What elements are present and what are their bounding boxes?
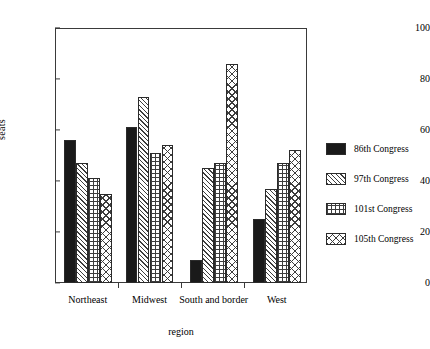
bar [88,178,100,283]
x-tick-label: Midwest [132,294,167,305]
y-tick-label: 0 [384,278,430,288]
bar [214,163,226,283]
bar-chart: seats 020406080100 NortheastMidwestSouth… [0,0,430,349]
x-tick-mark [118,283,119,288]
bar [289,150,301,283]
legend-item[interactable]: 101st Congress [326,201,413,217]
y-tick-label: 80 [384,74,430,84]
legend-swatch [326,173,346,185]
legend-item[interactable]: 86th Congress [326,141,413,157]
legend-item[interactable]: 97th Congress [326,171,413,187]
bar [126,127,138,283]
bar [100,194,112,283]
y-tick-label: 60 [384,125,430,135]
legend: 86th Congress97th Congress101st Congress… [326,141,413,261]
legend-label: 97th Congress [354,174,409,184]
legend-item[interactable]: 105th Congress [326,231,413,247]
legend-swatch [326,233,346,245]
bar [162,145,174,283]
bar [150,153,162,283]
legend-swatch [326,203,346,215]
bar [265,189,277,283]
x-axis-label: region [168,326,194,337]
bars-layer [55,28,307,283]
bar [277,163,289,283]
bar [64,140,76,283]
bar [202,168,214,283]
x-tick-label: West [267,294,287,305]
x-tick-label: Northeast [68,294,107,305]
bar [226,64,238,283]
bar [76,163,88,283]
x-tick-label: South and border [179,294,248,305]
y-axis-label: seats [0,119,7,140]
y-tick-label: 100 [384,23,430,33]
legend-label: 86th Congress [354,144,409,154]
legend-swatch [326,143,346,155]
x-tick-mark [244,283,245,288]
x-tick-mark [181,283,182,288]
legend-label: 101st Congress [354,204,412,214]
bar [138,97,150,283]
bar [253,219,265,283]
bar [190,260,202,283]
legend-label: 105th Congress [354,234,413,244]
